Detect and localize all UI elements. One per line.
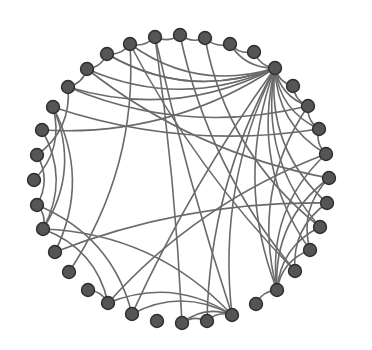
graph-node <box>37 223 50 236</box>
graph-node <box>36 124 49 137</box>
graph-edge <box>295 203 327 271</box>
graph-node <box>63 266 76 279</box>
graph-node <box>271 284 284 297</box>
graph-node <box>174 29 187 42</box>
graph-node <box>82 284 95 297</box>
graph-node <box>313 123 326 136</box>
graph-node <box>269 62 282 75</box>
graph-node <box>31 149 44 162</box>
graph-node <box>149 31 162 44</box>
graph-edge <box>68 68 275 100</box>
graph-node <box>49 246 62 259</box>
graph-node <box>201 315 214 328</box>
graph-node <box>62 81 75 94</box>
graph-node <box>289 265 302 278</box>
graph-node <box>126 308 139 321</box>
graph-edge <box>34 107 56 180</box>
graph-node <box>47 101 60 114</box>
graph-node <box>81 63 94 76</box>
graph-edge <box>87 68 275 89</box>
graph-node <box>320 148 333 161</box>
graph-node <box>323 172 336 185</box>
graph-node <box>199 32 212 45</box>
graph-edge <box>155 37 232 315</box>
graph-edge <box>229 68 275 315</box>
graph-node <box>314 221 327 234</box>
graph-node <box>250 298 263 311</box>
graph-node <box>304 244 317 257</box>
graph-node <box>248 46 261 59</box>
graph-node <box>31 199 44 212</box>
network-graph <box>0 0 372 350</box>
graph-node <box>321 197 334 210</box>
graph-node <box>124 38 137 51</box>
edge-layer <box>34 35 329 323</box>
graph-node <box>101 48 114 61</box>
graph-node <box>224 38 237 51</box>
graph-node <box>102 297 115 310</box>
graph-node <box>287 80 300 93</box>
graph-node <box>226 309 239 322</box>
graph-node <box>151 315 164 328</box>
graph-node <box>176 317 189 330</box>
graph-node <box>302 100 315 113</box>
graph-node <box>28 174 41 187</box>
node-layer <box>28 29 336 330</box>
graph-edge <box>37 205 132 314</box>
